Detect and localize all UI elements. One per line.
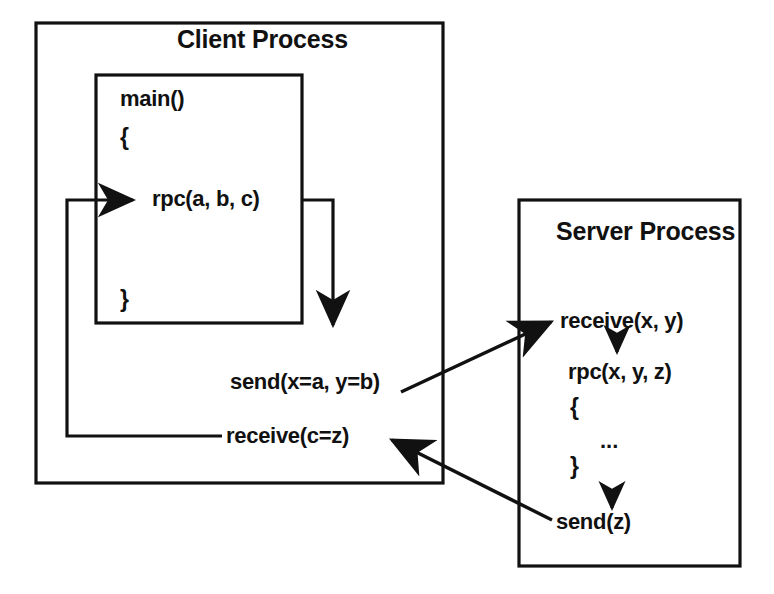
diagram-vector-layer: [0, 0, 774, 594]
server-open-brace: {: [570, 396, 579, 419]
client-receive-label: receive(c=z): [226, 425, 349, 447]
server-close-brace: }: [570, 455, 579, 478]
server-body-ellipsis: ...: [600, 430, 618, 452]
client-main-function-label: main(): [120, 88, 184, 110]
client-main-close-brace: }: [120, 288, 129, 311]
server-procedure-label: rpc(x, y, z): [568, 361, 672, 383]
client-rpc-call-label: rpc(a, b, c): [152, 188, 260, 210]
client-process-title: Client Process: [177, 27, 348, 52]
client-send-label: send(x=a, y=b): [230, 371, 380, 393]
server-receive-label: receive(x, y): [560, 310, 683, 332]
connector-server-send-to-client-receive: [392, 440, 552, 520]
client-main-open-brace: {: [120, 126, 129, 149]
connector-client-receive-to-rpc: [67, 200, 222, 436]
connector-client-send-to-server-receive: [401, 322, 551, 392]
connector-client-rpc-to-send: [302, 200, 333, 325]
server-process-title: Server Process: [556, 219, 735, 244]
diagram-canvas: Client Process main() { rpc(a, b, c) } s…: [0, 0, 774, 594]
server-send-label: send(z): [556, 511, 631, 533]
